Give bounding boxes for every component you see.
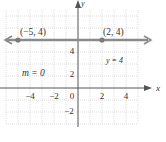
x-tick-0: 0	[70, 91, 75, 101]
x-tick-2: 2	[100, 91, 105, 101]
x-tick-4: 4	[124, 91, 129, 101]
slope-annotation: m = 0	[22, 68, 45, 78]
x-axis-arrow-icon	[144, 85, 152, 91]
x-tick-neg2: −2	[49, 91, 59, 101]
coordinate-plane: x y −4 −2 0 2 4 4 2 −2 (−5, 4) (2, 4) m …	[0, 0, 166, 142]
point-label-neg5-4: (−5, 4)	[20, 27, 46, 38]
x-tick-labels: −4 −2 0 2 4	[25, 91, 129, 101]
y-tick-2: 2	[70, 69, 75, 79]
point-label-2-4: (2, 4)	[103, 27, 124, 38]
x-axis: x	[0, 83, 160, 93]
point-neg5-4	[15, 37, 20, 42]
x-tick-neg4: −4	[25, 91, 35, 101]
x-axis-label: x	[155, 83, 160, 93]
y-axis: y	[75, 0, 85, 127]
y-axis-label: y	[80, 0, 85, 8]
equation-annotation: y = 4	[105, 56, 123, 65]
y-tick-neg2: −2	[64, 106, 74, 116]
point-2-4	[99, 37, 104, 42]
y-tick-4: 4	[70, 46, 75, 56]
